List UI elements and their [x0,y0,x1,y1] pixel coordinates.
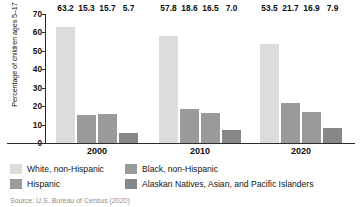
bar-slot[interactable]: 18.6 [180,14,199,143]
bar-slot[interactable]: 15.7 [98,14,117,143]
legend-row: HispanicAlaskan Natives, Asian, and Paci… [10,176,354,191]
bar-value-label: 7.0 [226,4,238,14]
legend-label: Black, non-Hispanic [142,164,218,174]
x-axis-tick-label: 2000 [56,146,138,156]
bar-group: 63.215.315.75.7 [56,14,138,143]
x-axis-tick-label: 2010 [159,146,241,156]
legend-row: White, non-HispanicBlack, non-Hispanic [10,161,354,176]
bar-slot[interactable]: 16.5 [201,14,220,143]
bar[interactable] [98,114,117,143]
y-axis-tick-mark [42,69,45,70]
legend-label: Alaskan Natives, Asian, and Pacific Isla… [142,179,314,189]
y-axis-tick-mark [42,32,45,33]
legend-label: Hispanic [27,179,60,189]
source-note: Source: U.S. Bureau of Census (2020) [10,197,130,204]
y-axis-tick-labels: 010203040506070 [18,0,42,160]
bar-value-label: 21.7 [282,4,298,14]
y-axis-tick-mark [42,88,45,89]
bar-groups: 63.215.315.75.757.818.616.57.053.521.716… [46,14,346,143]
bar[interactable] [119,133,138,144]
legend-item[interactable]: Hispanic [10,179,125,189]
legend-color-swatch [10,179,22,189]
y-axis-tick-mark [42,51,45,52]
bar-slot[interactable]: 21.7 [281,14,300,143]
plot-area: Percentage of children ages 5–17 0102030… [0,0,360,160]
legend-item[interactable]: Black, non-Hispanic [125,164,218,174]
bar-value-label: 15.3 [78,4,94,14]
y-axis-tick-mark [42,14,45,15]
legend-label: White, non-Hispanic [27,164,104,174]
x-axis-tick-label: 2020 [260,146,342,156]
bar-group: 53.521.716.97.9 [260,14,342,143]
bar-value-label: 7.9 [327,4,339,14]
bar[interactable] [56,27,75,143]
bar[interactable] [159,36,178,143]
legend-item[interactable]: White, non-Hispanic [10,164,125,174]
y-axis-tick-label: 70 [20,10,42,18]
bar-slot[interactable]: 15.3 [77,14,96,143]
x-axis-line [7,143,355,144]
y-axis-tick-label: 60 [20,28,42,36]
legend-color-swatch [125,179,137,189]
bar[interactable] [302,112,321,143]
y-axis-tick-label: 30 [20,84,42,92]
legend-item[interactable]: Alaskan Natives, Asian, and Pacific Isla… [125,179,314,189]
y-axis-tick-mark [42,143,45,144]
bar-slot[interactable]: 7.0 [222,14,241,143]
bar-value-label: 53.5 [261,4,277,14]
bar-value-label: 16.9 [303,4,319,14]
bar[interactable] [323,128,342,143]
bar-slot[interactable]: 53.5 [260,14,279,143]
legend-color-swatch [125,164,137,174]
bar-slot[interactable]: 57.8 [159,14,178,143]
bar[interactable] [281,103,300,143]
bar-slot[interactable]: 63.2 [56,14,75,143]
bar-value-label: 18.6 [181,4,197,14]
bar-value-label: 15.7 [99,4,115,14]
bar[interactable] [77,115,96,143]
y-axis-tick-mark [42,106,45,107]
chart-legend: White, non-HispanicBlack, non-HispanicHi… [10,161,354,191]
bar-value-label: 57.8 [160,4,176,14]
y-axis-tick-label: 10 [20,121,42,129]
bar[interactable] [180,109,199,143]
bar-slot[interactable]: 5.7 [119,14,138,143]
y-axis-tick-label: 40 [20,65,42,73]
y-axis-tick-label: 50 [20,47,42,55]
bar-slot[interactable]: 7.9 [323,14,342,143]
y-axis-tick-label: 20 [20,102,42,110]
legend-color-swatch [10,164,22,174]
bar-value-label: 63.2 [57,4,73,14]
bar-chart-figure: Percentage of children ages 5–17 0102030… [0,0,360,207]
bar[interactable] [260,44,279,143]
bar[interactable] [222,130,241,143]
bar-value-label: 5.7 [123,4,135,14]
bar[interactable] [201,113,220,143]
y-axis-tick-mark [42,125,45,126]
bar-group: 57.818.616.57.0 [159,14,241,143]
bar-value-label: 16.5 [202,4,218,14]
bar-slot[interactable]: 16.9 [302,14,321,143]
